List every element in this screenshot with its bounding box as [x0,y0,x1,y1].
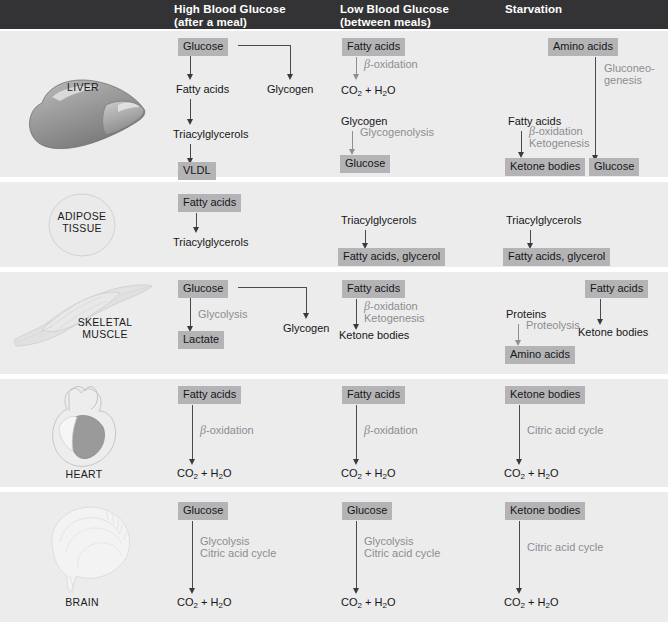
row-brain: BRAIN Glucose Glycolysis Citric acid cyc… [0,492,668,622]
node-ketone-bodies-brain-starv: Ketone bodies [505,502,585,520]
enzyme-gluconeogenesis: Gluconeo- genesis [604,62,655,86]
enzyme-label: -oxidation [370,424,418,436]
arrow-glucose-to-glycogen-v [290,45,291,76]
node-glucose-brain-low: Glucose [342,502,392,520]
node-ketone-bodies-liver-starv: Ketone bodies [505,158,585,176]
metabolism-summary-diagram: High Blood Glucose (after a meal) Low Bl… [0,0,668,622]
node-ketone-bodies-muscle-low: Ketone bodies [338,327,410,345]
enzyme-ketogenesis-muscle-low: Ketogenesis [364,312,425,325]
header-line1: Low Blood Glucose [340,3,449,15]
arrowhead-glucose-to-glycogen [287,74,293,80]
node-fatty-acids-muscle-starv: Fatty acids [585,280,648,298]
arrow-glucose-to-glycogen-v-muscle [306,287,307,315]
node-fatty-acids-liver-high: Fatty acids [175,81,230,99]
arrowhead-fattyacids-to-tag-adipose-high [193,227,199,233]
enzyme-label: -oxidation [206,424,254,436]
node-triacylglycerols-liver-high: Triacylglycerols [172,126,249,144]
row-adipose: ADIPOSE TISSUE Fatty acids Triacylglycer… [0,182,668,267]
node-ketone-bodies-muscle-starv: Ketone bodies [577,324,649,342]
node-triacylglycerols-adipose-starv: Triacylglycerols [505,212,582,230]
node-glucose-liver-high: Glucose [178,38,228,56]
enzyme-beta-oxidation-liver-low: β-oxidation [364,58,418,71]
arrow-fattyacids-to-ketones-muscle-starv [600,299,601,321]
enzyme-citric-acid-cycle-brain-high: Citric acid cycle [200,547,276,560]
node-co2-h2o-brain-starv: CO2 + H2O [503,594,559,615]
row-heart: HEART Fatty acids β-oxidation CO2 + H2O … [0,379,668,487]
node-amino-acids-muscle-starv: Amino acids [505,346,575,364]
node-co2-h2o-heart-high: CO2 + H2O [176,465,232,486]
arrowhead-glucose-to-fattyacids [187,74,193,80]
node-amino-acids-liver-starv: Amino acids [548,38,618,56]
arrow-glucose-to-co2-brain-high [192,521,193,590]
row-liver: LIVER Glucose Fatty acids Glycogen Triac… [0,31,668,177]
node-co2-h2o-brain-high: CO2 + H2O [176,594,232,615]
arrow-fattyacids-to-tag [190,99,191,121]
node-triacylglycerols-adipose-high: Triacylglycerols [172,234,249,252]
header-line2: (after a meal) [174,16,286,29]
arrow-glucose-to-glycogen-h-muscle [238,287,306,288]
enzyme-beta-oxidation-heart-high: β-oxidation [200,424,254,437]
node-fatty-acids-glycerol-adipose-low: Fatty acids, glycerol [338,248,445,266]
tissue-label-skeletal-muscle: SKELETAL MUSCLE [62,316,148,340]
node-glucose-brain-high: Glucose [178,502,228,520]
arrow-glycogen-to-glucose-liver-low [352,131,353,151]
node-co2-h2o-heart-starv: CO2 + H2O [503,465,559,486]
header-high-blood-glucose: High Blood Glucose (after a meal) [174,3,286,28]
tissue-label-adipose: ADIPOSE TISSUE [48,210,116,234]
arrow-ketones-to-co2-heart-starv [519,405,520,461]
node-co2-h2o-brain-low: CO2 + H2O [340,594,396,615]
row-skeletal-muscle: SKELETAL MUSCLE Glucose Glycolysis Glyco… [0,272,668,374]
arrowhead-fattyacids-to-tag [187,119,193,125]
heart-illustration [45,381,123,471]
tissue-label-heart: HEART [50,468,118,480]
arrow-glucose-to-glycogen-h [238,45,290,46]
arrow-fattyacids-to-co2-heart-high [192,405,193,461]
node-fatty-acids-liver-low: Fatty acids [342,38,405,56]
node-co2-h2o-heart-low: CO2 + H2O [340,465,396,486]
header-line2: (between meals) [340,16,449,29]
node-glycogen-muscle-high: Glycogen [282,320,330,338]
tissue-label-brain: BRAIN [48,596,116,608]
node-glucose-muscle-high: Glucose [178,280,228,298]
column-header-bar: High Blood Glucose (after a meal) Low Bl… [0,0,668,29]
arrow-ketones-to-co2-brain-starv [519,521,520,590]
node-lactate-muscle-high: Lactate [178,331,224,349]
arrow-fattyacids-to-ketones-muscle-low [356,299,357,326]
arrowhead-glucose-to-glycogen-muscle [303,313,309,319]
header-low-blood-glucose: Low Blood Glucose (between meals) [340,3,449,28]
arrowhead-fattyacids-to-co2-liver-low [353,74,359,80]
enzyme-citric-acid-cycle-heart-starv: Citric acid cycle [527,424,603,437]
enzyme-citric-acid-cycle-brain-low: Citric acid cycle [364,547,440,560]
enzyme-glycolysis-muscle: Glycolysis [198,308,248,321]
node-fatty-acids-adipose-high: Fatty acids [178,194,241,212]
enzyme-label: -oxidation [370,300,418,312]
arrow-glucose-to-lactate [190,298,191,328]
node-fatty-acids-heart-high: Fatty acids [178,386,241,404]
arrow-fattyacids-to-co2-heart-low [356,405,357,461]
arrow-glucose-to-fattyacids [190,56,191,76]
node-fatty-acids-heart-low: Fatty acids [342,386,405,404]
tissue-label-liver: LIVER [38,81,128,93]
node-glucose-liver-low: Glucose [340,155,390,173]
enzyme-glycogenolysis: Glycogenolysis [360,126,434,139]
node-fatty-acids-glycerol-adipose-starv: Fatty acids, glycerol [503,248,610,266]
gluconeogenesis-line1: Gluconeo- [604,62,655,74]
gluconeogenesis-line2: genesis [604,74,642,86]
header-line1: High Blood Glucose [174,3,286,15]
brain-illustration [34,498,136,594]
enzyme-citric-acid-cycle-brain-starv: Citric acid cycle [527,541,603,554]
enzyme-ketogenesis-liver-starv: Ketogenesis [529,137,590,150]
enzyme-proteolysis: Proteolysis [526,319,580,332]
node-glycogen-liver-high: Glycogen [266,81,314,99]
arrow-glucose-to-co2-brain-low [356,521,357,590]
node-ketone-bodies-heart-starv: Ketone bodies [505,386,585,404]
header-starvation: Starvation [505,3,562,16]
node-co2-h2o-liver-low: CO2 + H2O [340,82,396,103]
node-vldl-liver-high: VLDL [178,162,216,180]
enzyme-beta-oxidation-heart-low: β-oxidation [364,424,418,437]
arrow-fattyacids-to-ketones-liver-starv [521,131,522,154]
enzyme-label: -oxidation [370,58,418,70]
header-line1: Starvation [505,3,562,15]
arrow-aminoacids-to-glucose [595,57,596,158]
node-triacylglycerols-adipose-low: Triacylglycerols [340,212,417,230]
